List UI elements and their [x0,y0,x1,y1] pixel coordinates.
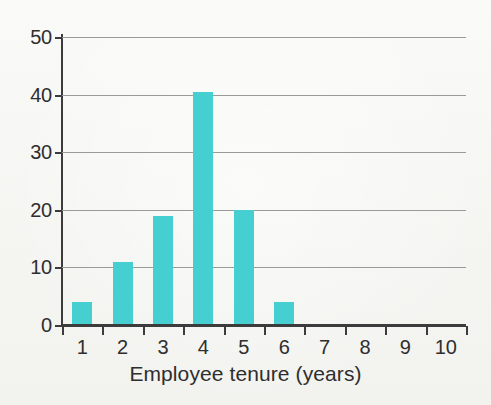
x-tick-mark [62,326,64,335]
gridline [62,37,466,38]
bar [234,210,254,325]
x-tick-mark [304,326,306,335]
y-tick-label: 10 [18,257,52,277]
bar [113,262,133,325]
y-axis-tick-labels: 01020304050 [8,0,52,405]
y-tick-mark [55,95,62,97]
x-tick-mark [183,326,185,335]
x-tick-label: 5 [222,337,266,357]
x-tick-label: 10 [424,337,468,357]
bar [274,302,294,325]
y-tick-label: 50 [18,27,52,47]
plot-area [62,37,466,325]
x-tick-label: 7 [303,337,347,357]
x-tick-label: 8 [343,337,387,357]
x-tick-mark [426,326,428,335]
y-tick-label: 30 [18,142,52,162]
x-tick-mark [466,326,468,335]
x-tick-label: 6 [262,337,306,357]
x-tick-mark [385,326,387,335]
x-tick-label: 4 [181,337,225,357]
x-tick-label: 9 [383,337,427,357]
x-tick-mark [102,326,104,335]
x-tick-mark [345,326,347,335]
x-tick-mark [224,326,226,335]
y-tick-mark [55,325,62,327]
x-tick-label: 2 [101,337,145,357]
y-tick-mark [55,267,62,269]
x-tick-mark [143,326,145,335]
y-tick-label: 0 [18,315,52,335]
bar [193,92,213,325]
gridline [62,152,466,153]
gridline [62,210,466,211]
x-tick-label: 3 [141,337,185,357]
x-tick-mark [264,326,266,335]
y-tick-label: 20 [18,200,52,220]
bar [72,302,92,325]
x-axis-title: Employee tenure (years) [0,362,491,386]
gridline [62,95,466,96]
y-tick-label: 40 [18,85,52,105]
x-tick-label: 1 [60,337,104,357]
y-tick-mark [55,210,62,212]
y-tick-mark [55,152,62,154]
y-tick-mark [55,37,62,39]
bar [153,216,173,325]
chart-figure: 01020304050 12345678910 Employee tenure … [0,0,491,405]
